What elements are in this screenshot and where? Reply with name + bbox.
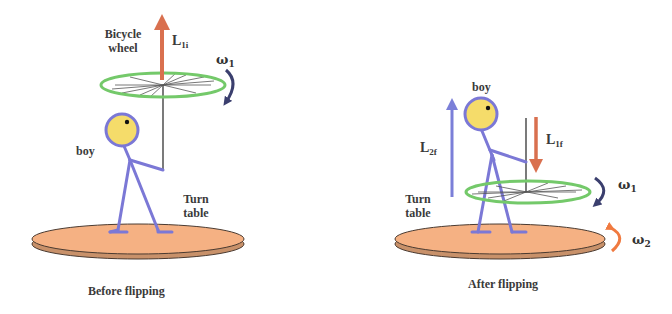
- boy-figure-after: [465, 98, 526, 232]
- label-turntable-before-line2: table: [180, 206, 212, 220]
- label-turntable-after: Turn table: [402, 192, 434, 220]
- panel-after-flipping: [395, 98, 620, 259]
- label-l2f: L2f: [420, 141, 437, 159]
- label-bicycle-wheel: Bicycle wheel: [98, 27, 148, 55]
- label-bicycle-wheel-line1: Bicycle: [98, 27, 148, 41]
- label-turntable-after-line2: table: [402, 206, 434, 220]
- bicycle-wheel-after: [466, 181, 590, 203]
- label-l1f: L1f: [546, 133, 563, 151]
- turntable-after: [395, 224, 605, 259]
- rotation-omega2-arrow: [611, 228, 620, 251]
- label-boy-before: boy: [76, 144, 95, 158]
- caption-after-flipping: After flipping: [468, 277, 538, 291]
- label-turntable-before: Turn table: [180, 192, 212, 220]
- label-turntable-after-line1: Turn: [402, 192, 434, 206]
- label-bicycle-wheel-line2: wheel: [98, 41, 148, 55]
- rotation-omega1-arrow-after: [595, 178, 604, 204]
- caption-before-flipping: Before flipping: [88, 284, 165, 298]
- label-turntable-before-line1: Turn: [180, 192, 212, 206]
- turntable-before: [32, 224, 244, 259]
- boy-eye-before: [125, 120, 129, 124]
- label-omega1-before: ω1: [216, 53, 235, 71]
- rotation-omega1-arrow-before: [226, 70, 233, 102]
- panel-before-flipping: [32, 22, 244, 259]
- label-omega2: ω2: [632, 233, 651, 251]
- boy-eye-after: [486, 106, 490, 110]
- boy-figure-before: [106, 114, 172, 232]
- label-omega1-after: ω1: [618, 178, 637, 196]
- label-boy-after: boy: [472, 80, 491, 94]
- label-l1i: L1i: [172, 34, 188, 52]
